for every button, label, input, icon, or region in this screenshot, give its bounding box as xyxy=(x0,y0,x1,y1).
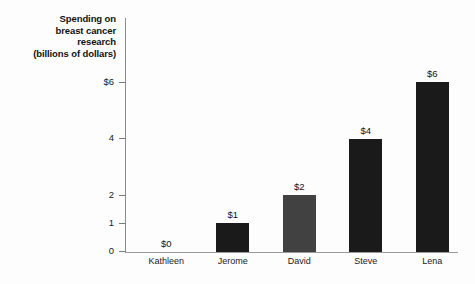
chart-figure: Spending on breast cancer research (bill… xyxy=(0,0,475,284)
category-label-lena: Lena xyxy=(389,256,475,266)
y-tick-label-2: 2 xyxy=(54,189,114,200)
y-tick-label-1: 1 xyxy=(54,217,114,228)
y-axis-title-line-3: research xyxy=(8,36,116,48)
y-axis-line xyxy=(125,18,126,252)
bar-value-label-jerome: $1 xyxy=(203,209,263,220)
x-axis-line xyxy=(125,252,458,254)
bar-value-label-steve: $4 xyxy=(336,125,396,136)
y-axis-title-line-2: breast cancer xyxy=(8,25,116,37)
bar-value-label-kathleen: $0 xyxy=(136,238,196,249)
bar-value-label-lena: $6 xyxy=(402,68,462,79)
bar-lena xyxy=(416,82,449,252)
y-tick-label-4: 4 xyxy=(54,132,114,143)
y-axis-title: Spending on breast cancer research (bill… xyxy=(8,13,116,59)
y-tick-0 xyxy=(119,251,126,252)
y-tick-4 xyxy=(119,138,126,139)
y-tick-label-6: $6 xyxy=(54,76,114,87)
y-axis-title-line-1: Spending on xyxy=(8,13,116,25)
y-tick-2 xyxy=(119,195,126,196)
y-tick-1 xyxy=(119,223,126,224)
y-tick-6 xyxy=(119,82,126,83)
y-axis-title-line-4: (billions of dollars) xyxy=(8,48,116,60)
bar-steve xyxy=(349,139,382,252)
bar-value-label-david: $2 xyxy=(269,181,329,192)
y-tick-label-0: 0 xyxy=(54,245,114,256)
bar-david xyxy=(283,195,316,252)
bar-jerome xyxy=(216,223,249,251)
